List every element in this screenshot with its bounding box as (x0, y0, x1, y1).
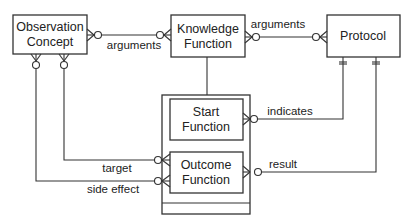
entity-start-function[interactable]: Start Function (170, 99, 243, 140)
entity-label: Concept (27, 35, 74, 49)
relationship-indicates: indicates (243, 57, 347, 125)
zero-circle-icon (253, 34, 260, 41)
relationship-target: target (59, 54, 170, 174)
entity-label: Start (193, 105, 220, 119)
zero-circle-icon (157, 32, 164, 39)
entity-outcome-function[interactable]: Outcome Function (170, 152, 243, 193)
relationship-arguments-1: arguments (87, 29, 171, 51)
relationship-label: result (269, 158, 298, 170)
zero-circle-icon (95, 32, 102, 39)
zero-circle-icon (61, 62, 68, 69)
crows-foot-icon (164, 29, 171, 35)
crows-foot-icon (245, 31, 252, 37)
crows-foot-icon (320, 31, 327, 37)
relationship-label: target (102, 162, 132, 174)
zero-circle-icon (155, 157, 162, 164)
entity-protocol[interactable]: Protocol (327, 15, 400, 57)
relationship-label: arguments (251, 18, 306, 30)
er-diagram: Observation Concept Knowledge Function P… (0, 0, 410, 223)
relationship-result: result (243, 57, 380, 178)
crows-foot-icon (59, 54, 64, 61)
relationship-label: arguments (107, 39, 162, 51)
zero-circle-icon (255, 169, 262, 176)
entity-label: Protocol (340, 29, 386, 43)
crows-foot-icon (31, 54, 36, 61)
entity-knowledge-function[interactable]: Knowledge Function (171, 15, 245, 57)
entity-label: Function (182, 120, 230, 134)
relationship-label: indicates (267, 105, 313, 117)
zero-circle-icon (33, 62, 40, 69)
zero-circle-icon (313, 34, 320, 41)
relationship-label: side effect (87, 183, 140, 195)
relationship-side-effect: side effect (31, 54, 170, 195)
entity-label: Function (184, 37, 232, 51)
entity-label: Observation (16, 20, 83, 34)
crows-foot-icon (87, 29, 94, 35)
entity-label: Knowledge (177, 22, 239, 36)
zero-circle-icon (251, 116, 258, 123)
relationship-arguments-2: arguments (245, 18, 327, 43)
entity-label: Outcome (181, 158, 232, 172)
zero-circle-icon (155, 178, 162, 185)
entity-observation-concept[interactable]: Observation Concept (13, 15, 87, 54)
entity-label: Function (182, 173, 230, 187)
